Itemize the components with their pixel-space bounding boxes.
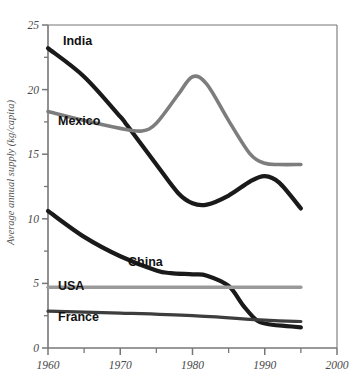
y-tick-label: 5: [33, 277, 39, 289]
series-label-mexico: Mexico: [58, 114, 101, 128]
line-chart: 0510152025 19601970198019902000 Average …: [0, 0, 356, 385]
series-label-france: France: [58, 310, 99, 324]
x-tick-label: 1970: [109, 359, 132, 371]
x-tick-label: 1980: [181, 359, 204, 371]
series-label-usa: USA: [58, 279, 84, 293]
y-tick-label: 20: [28, 84, 40, 96]
series-label-india: India: [63, 34, 93, 48]
y-tick-label: 10: [28, 213, 40, 225]
x-tick-label: 2000: [326, 359, 349, 371]
x-tick-label: 1960: [37, 359, 60, 371]
y-axis-title: Average annual supply (kg/capita): [5, 100, 17, 246]
y-tick-label: 15: [28, 148, 40, 160]
chart-container: 0510152025 19601970198019902000 Average …: [0, 0, 356, 385]
x-tick-label: 1990: [253, 359, 276, 371]
y-tick-label: 0: [33, 342, 39, 354]
y-tick-label: 25: [28, 19, 40, 31]
series-label-china: China: [128, 255, 164, 269]
